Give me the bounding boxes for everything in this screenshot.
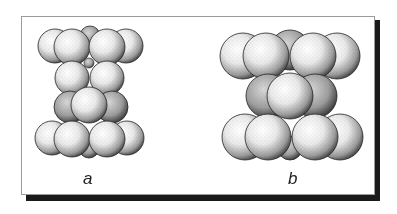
- stipple-texture: [35, 26, 364, 162]
- sphere-packing-figure: [0, 0, 397, 214]
- panel-b-label: b: [288, 169, 297, 189]
- panel-a-label: a: [83, 169, 92, 189]
